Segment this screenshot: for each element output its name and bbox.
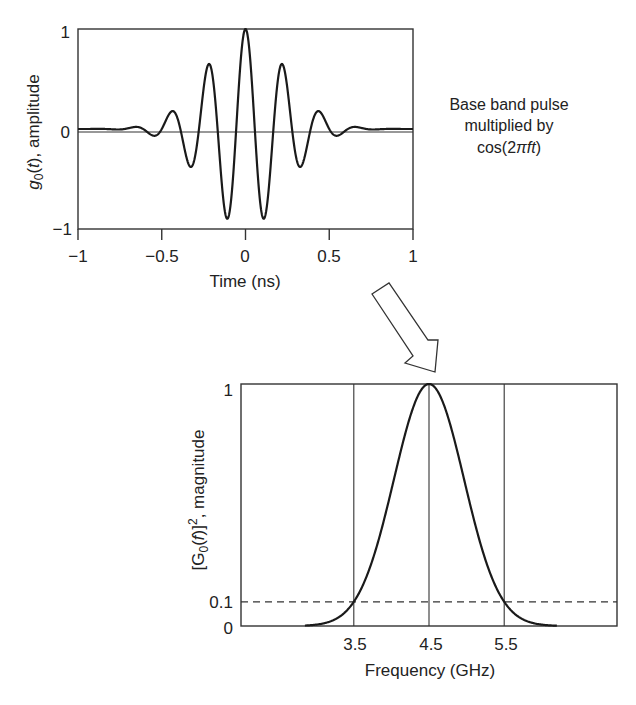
y-axis-title: [G0(f)]2, magnitude: [186, 430, 211, 571]
y-tick-label: 0: [224, 619, 233, 638]
y-tick-label: −1: [53, 220, 72, 239]
x-tick-labels: −1 −0.5 0 0.5 1: [68, 247, 417, 266]
hollow-arrow-down-right-icon: [372, 283, 438, 372]
x-tick-label: −0.5: [145, 247, 179, 266]
x-tick-label: 5.5: [494, 635, 518, 654]
y-axis-title: g0(t), amplitude: [24, 74, 46, 189]
frequency-domain-plot: 1 0.1 0 3.5 4.5 5.5 Frequency (GHz) [G0(…: [186, 381, 617, 680]
annotation-line-2: multiplied by: [465, 117, 554, 134]
annotation-formula: cos(2πft): [477, 139, 541, 156]
x-tick-label: 4.5: [419, 635, 443, 654]
y-tick-label: 0.1: [209, 593, 233, 612]
annotation: Base band pulse multiplied by cos(2πft): [449, 96, 568, 156]
y-tick-label: 1: [224, 381, 233, 400]
annotation-line-1: Base band pulse: [449, 96, 568, 113]
x-tick-label: 0.5: [317, 247, 341, 266]
x-tick-label: 0: [240, 247, 249, 266]
y-tick-label: 1: [61, 23, 70, 42]
x-axis-title: Time (ns): [209, 272, 280, 291]
x-tick-label: −1: [68, 247, 87, 266]
x-axis-title: Frequency (GHz): [365, 661, 495, 680]
x-tick-label: 3.5: [343, 635, 367, 654]
x-tick-label: 1: [408, 247, 417, 266]
reference-lines: [354, 384, 504, 626]
spectrum-curve: [305, 384, 557, 626]
y-tick-label: 0: [61, 123, 70, 142]
x-ticks: [78, 229, 413, 240]
time-domain-plot: 1 0 −1 −1 −0.5 0 0.5 1 Time (ns) g0(t), …: [24, 23, 418, 291]
figure: 1 0 −1 −1 −0.5 0 0.5 1 Time (ns) g0(t), …: [0, 0, 636, 705]
pulse-waveform: [78, 29, 413, 219]
